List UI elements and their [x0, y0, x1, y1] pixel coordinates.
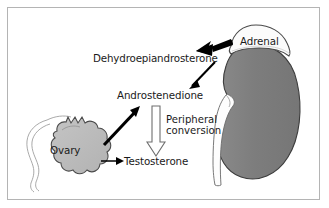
diagram-figure: Dehydroepiandrosterone Androstenedione T… — [0, 0, 329, 208]
diagram-graphics — [0, 0, 329, 208]
label-dehydroepiandrosterone: Dehydroepiandrosterone — [93, 53, 218, 64]
label-adrenal: Adrenal — [240, 36, 279, 47]
arrow-peripheral-conversion — [147, 106, 165, 156]
label-testosterone: Testosterone — [124, 156, 188, 167]
label-ovary: Ovary — [50, 145, 80, 156]
label-peripheral-conversion-line2: conversion — [166, 126, 221, 137]
label-peripheral-conversion: Peripheral conversion — [166, 115, 221, 136]
label-peripheral-conversion-line1: Peripheral — [166, 115, 221, 126]
arrow-ovary-to-androstenedione — [104, 106, 140, 145]
label-androstenedione: Androstenedione — [117, 90, 203, 101]
arrow-dhea-to-androstenedione — [189, 62, 215, 89]
